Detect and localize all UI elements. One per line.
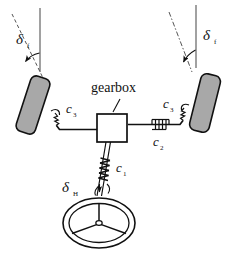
diagram-canvas: δ f δ f gearbox c 3 c 3 c 2 c 1	[0, 0, 237, 253]
left-steer-angle-arc	[26, 53, 40, 62]
c1-subscript: 1	[123, 170, 127, 178]
label-delta-front-right: δ f	[203, 27, 217, 46]
label-delta-front-left: δ f	[16, 31, 30, 50]
right-wheel-axis-dashed	[169, 12, 192, 72]
handwheel-angle-arc-right	[107, 184, 110, 194]
c1-symbol: c	[116, 160, 122, 175]
gearbox-label: gearbox	[91, 80, 136, 95]
label-stiffness-c1: c 1	[116, 160, 127, 178]
c3-right-subscript: 3	[170, 106, 174, 114]
delta-front-left-subscript: f	[27, 42, 30, 50]
c3-left-symbol: c	[66, 101, 72, 116]
c3-right-symbol: c	[163, 96, 169, 111]
label-delta-handwheel: δ H	[62, 179, 78, 198]
label-stiffness-c3-left: c 3	[66, 101, 77, 119]
delta-front-right-subscript: f	[214, 38, 217, 46]
c2-subscript: 2	[160, 144, 164, 152]
delta-front-left-symbol: δ	[16, 31, 24, 47]
gearbox-leader-line	[113, 99, 120, 112]
delta-front-right-symbol: δ	[203, 27, 211, 43]
c3-left-subscript: 3	[73, 111, 77, 119]
delta-handwheel-symbol: δ	[62, 179, 70, 195]
c2-symbol: c	[153, 134, 159, 149]
right-steer-angle-arc	[184, 50, 196, 62]
left-kingpin-spring	[54, 113, 59, 126]
steering-gearbox	[97, 114, 127, 142]
steering-system-diagram: δ f δ f gearbox c 3 c 3 c 2 c 1	[0, 0, 237, 253]
left-front-tire	[15, 74, 52, 135]
label-stiffness-c3-right: c 3	[163, 96, 174, 114]
label-stiffness-c2: c 2	[153, 134, 164, 152]
right-front-tire	[188, 72, 221, 133]
delta-handwheel-subscript: H	[73, 190, 78, 198]
column-torsion-spring	[99, 158, 111, 181]
hand-steering-wheel	[63, 198, 135, 248]
